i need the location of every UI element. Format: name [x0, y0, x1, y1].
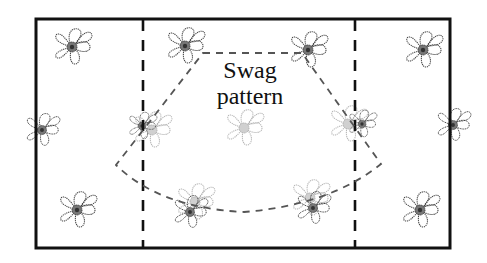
flower-icon	[228, 110, 264, 145]
swag-pattern-diagram: Swag pattern	[0, 0, 487, 263]
flower-icon	[407, 32, 443, 67]
flower-icon	[438, 109, 471, 141]
swag-label-line2: pattern	[190, 84, 310, 108]
swag-label-line1: Swag	[190, 58, 310, 82]
diagram-canvas	[0, 0, 487, 263]
flower-icon	[404, 192, 440, 227]
flower-icon	[27, 114, 60, 146]
flower-icon	[56, 29, 92, 64]
flower-icon	[61, 192, 97, 227]
